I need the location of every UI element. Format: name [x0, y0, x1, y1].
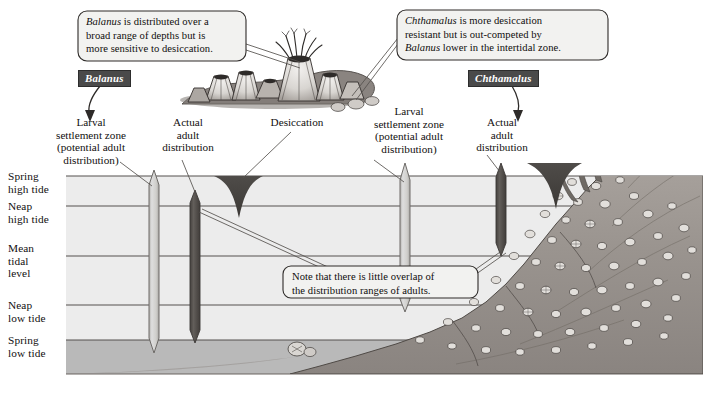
- tide-label-spring-low-l1: Spring: [8, 334, 39, 346]
- balanus-tag: Balanus: [78, 70, 131, 87]
- label-chthamalus-larval: Larval settlement zone (potential adult …: [344, 105, 474, 155]
- balanus-callout-species: Balanus: [86, 16, 121, 27]
- label-desiccation-l1: Desiccation: [271, 116, 324, 128]
- tide-label-neap-high: Neap high tide: [8, 200, 49, 225]
- label-chthamalus-larval-l4: distribution): [381, 143, 436, 155]
- chthamalus-callout-line1: is more desiccation: [457, 15, 542, 26]
- label-desiccation: Desiccation: [246, 116, 348, 129]
- tide-label-mean-tidal-l1: Mean: [8, 242, 34, 254]
- tide-label-neap-high-l1: Neap: [8, 200, 32, 212]
- overlap-callout-line1: Note that there is little overlap of: [292, 271, 434, 282]
- label-chthamalus-larval-l3: (potential adult: [375, 130, 443, 142]
- tide-label-spring-high-l2: high tide: [8, 183, 49, 195]
- balanus-adult-bar: [190, 190, 200, 343]
- balanus-callout-line2: broad range of depths but is: [86, 30, 205, 41]
- tide-label-mean-tidal: Mean tidal level: [8, 242, 34, 280]
- label-balanus-larval-l4: distribution): [63, 154, 118, 166]
- label-chthamalus-adult-l2: adult: [491, 129, 513, 141]
- overlap-callout-line2: the distribution ranges of adults.: [292, 285, 431, 296]
- tide-label-spring-low-l2: low tide: [8, 347, 46, 359]
- tide-label-spring-high-l1: Spring: [8, 170, 39, 182]
- chthamalus-callout-line3: lower in the intertidal zone.: [440, 42, 561, 53]
- label-chthamalus-adult-l3: distribution: [476, 141, 528, 153]
- label-balanus-larval-l3: (potential adult: [57, 141, 125, 153]
- label-balanus-adult-l1: Actual: [173, 116, 203, 128]
- balanus-larval-bar: [149, 170, 159, 353]
- tide-label-spring-low: Spring low tide: [8, 334, 46, 359]
- tide-label-spring-high: Spring high tide: [8, 170, 49, 195]
- tide-label-neap-low: Neap low tide: [8, 299, 46, 324]
- label-balanus-adult: Actual adult distribution: [146, 116, 230, 154]
- figure-canvas: Balanus is distributed over a broad rang…: [0, 0, 703, 393]
- chthamalus-adult-bar: [496, 163, 506, 256]
- tide-label-mean-tidal-l2: tidal: [8, 255, 29, 267]
- balanus-callout-line3: more sensitive to desiccation.: [86, 43, 213, 54]
- label-balanus-larval-l1: Larval: [76, 116, 105, 128]
- tide-label-neap-low-l1: Neap: [8, 299, 32, 311]
- label-balanus-larval: Larval settlement zone (potential adult …: [26, 116, 156, 166]
- tide-label-mean-tidal-l3: level: [8, 267, 30, 279]
- chthamalus-callout-line2: resistant but is out-competed by: [405, 29, 542, 40]
- tide-label-neap-low-l2: low tide: [8, 312, 46, 324]
- label-chthamalus-adult: Actual adult distribution: [460, 116, 544, 154]
- tide-label-neap-high-l2: high tide: [8, 213, 49, 225]
- label-chthamalus-larval-l1: Larval: [394, 105, 423, 117]
- overlap-callout-text: Note that there is little overlap of the…: [292, 270, 472, 297]
- chthamalus-callout-species: Chthamalus: [405, 15, 457, 26]
- chthamalus-tag: Chthamalus: [468, 70, 539, 87]
- label-balanus-adult-l2: adult: [177, 129, 199, 141]
- label-balanus-adult-l3: distribution: [162, 141, 214, 153]
- label-chthamalus-adult-l1: Actual: [487, 116, 517, 128]
- balanus-callout-line1: is distributed over a: [121, 16, 209, 27]
- label-balanus-larval-l2: settlement zone: [56, 129, 126, 141]
- label-chthamalus-larval-l2: settlement zone: [374, 118, 444, 130]
- chthamalus-callout-text: Chthamalus is more desiccation resistant…: [405, 14, 605, 55]
- diagram-artwork: [0, 0, 703, 393]
- chthamalus-callout-species2: Balanus: [405, 42, 440, 53]
- balanus-callout-text: Balanus is distributed over a broad rang…: [86, 15, 242, 56]
